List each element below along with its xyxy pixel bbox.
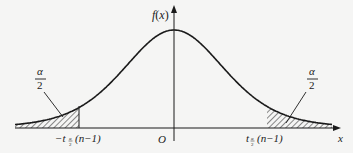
svg-text:2: 2 xyxy=(37,79,43,91)
svg-text:(n−1): (n−1) xyxy=(75,132,101,145)
right-area-label: α 2 xyxy=(307,65,318,91)
svg-text:α: α xyxy=(309,65,315,77)
t-distribution-figure: f(x) x O α 2 α 2 −t α 2 (n−1) t α 2 (n−1… xyxy=(0,0,353,153)
origin-label: O xyxy=(158,133,166,145)
right-critical-value-label: t α 2 (n−1) xyxy=(246,132,283,147)
svg-text:−t: −t xyxy=(55,132,66,144)
y-axis-arrow-icon xyxy=(171,5,177,13)
left-critical-value-label: −t α 2 (n−1) xyxy=(55,132,101,147)
svg-text:α: α xyxy=(69,136,72,141)
svg-text:α: α xyxy=(37,65,43,77)
y-axis xyxy=(171,5,177,141)
svg-text:2: 2 xyxy=(69,142,72,147)
svg-text:(n−1): (n−1) xyxy=(257,132,283,145)
y-axis-label: f(x) xyxy=(152,8,169,22)
density-plot: f(x) x O α 2 α 2 −t α 2 (n−1) t α 2 (n−1… xyxy=(0,0,353,153)
svg-text:2: 2 xyxy=(309,79,315,91)
left-area-label: α 2 xyxy=(35,65,46,91)
x-axis-label: x xyxy=(337,132,343,144)
svg-text:t: t xyxy=(246,132,250,144)
svg-text:α: α xyxy=(251,136,254,141)
x-axis-arrow-icon xyxy=(333,125,341,131)
svg-text:2: 2 xyxy=(251,142,254,147)
left-area-leader-line xyxy=(44,92,63,117)
